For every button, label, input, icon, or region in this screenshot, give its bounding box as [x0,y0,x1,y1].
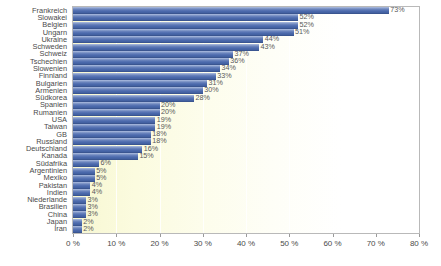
bar-row: 6% [73,160,419,167]
bar [73,146,142,153]
bar [73,36,263,43]
bar-value-label: 73% [390,6,404,14]
x-axis: 0 %10 %20 %30 %40 %50 %60 %70 %80 % [72,234,420,264]
x-tick-mark [116,234,117,237]
x-tick-label: 10 % [107,239,125,249]
bar [73,138,151,145]
bar-row: 30% [73,87,419,94]
x-tick-mark [289,234,290,237]
bar-value-label: 2% [83,225,93,233]
bar [73,219,82,226]
bar-row: 3% [73,204,419,211]
bar-row: 19% [73,124,419,131]
bar [73,73,216,80]
bar [73,226,82,233]
bar [73,109,160,116]
bar-row: 51% [73,29,419,36]
bar [73,7,389,14]
bar [73,44,259,51]
bar-row: 36% [73,58,419,65]
bar-row: 52% [73,22,419,29]
bar [73,102,160,109]
x-tick-label: 70 % [367,239,385,249]
bar [73,204,86,211]
bar [73,22,298,29]
bar-value-label: 43% [260,43,274,51]
x-tick-mark [73,234,74,237]
x-tick-label: 20 % [150,239,168,249]
bar [73,87,203,94]
bar-row: 34% [73,65,419,72]
x-tick-mark [246,234,247,237]
gridline [419,7,420,233]
x-tick-mark [203,234,204,237]
x-tick-label: 80 % [410,239,428,249]
x-tick-mark [419,234,420,237]
x-tick-mark [376,234,377,237]
bar-row: 20% [73,102,419,109]
bar-row: 3% [73,211,419,218]
bar-row: 52% [73,14,419,21]
bar [73,58,229,65]
bar-row: 4% [73,189,419,196]
bar [73,14,298,21]
x-tick-label: 0 % [66,239,80,249]
bar-row: 31% [73,80,419,87]
category-label: Iran [54,225,67,233]
bar-row: 44% [73,36,419,43]
bar-row: 5% [73,168,419,175]
bar-row: 19% [73,117,419,124]
plot-area: 73%52%52%51%44%43%37%36%34%33%31%30%28%2… [72,6,420,234]
bar-value-label: 51% [295,28,309,36]
bar-row: 4% [73,182,419,189]
bar-row: 37% [73,51,419,58]
bar [73,131,151,138]
bar-row: 28% [73,95,419,102]
x-tick-mark [160,234,161,237]
bar-row: 16% [73,146,419,153]
bar-row: 20% [73,109,419,116]
bar-row: 2% [73,219,419,226]
bar [73,160,99,167]
bar [73,117,155,124]
x-tick-label: 50 % [280,239,298,249]
bar-row: 3% [73,197,419,204]
bar [73,124,155,131]
bar [73,65,220,72]
bar-row: 15% [73,153,419,160]
x-tick-label: 40 % [237,239,255,249]
bar [73,51,233,58]
x-tick-label: 30 % [194,239,212,249]
bar [73,168,95,175]
bar-value-label: 15% [139,152,153,160]
bar-row: 33% [73,73,419,80]
bar-row: 18% [73,138,419,145]
x-tick-mark [333,234,334,237]
bar [73,182,90,189]
bar-row: 2% [73,226,419,233]
bar [73,80,207,87]
category-axis: FrankreichSlowakeiBelgienUngarnUkraineSc… [0,7,70,233]
bar-value-label: 28% [196,94,210,102]
bar [73,95,194,102]
bar [73,29,294,36]
x-tick-label: 60 % [323,239,341,249]
bar-chart: FrankreichSlowakeiBelgienUngarnUkraineSc… [0,0,441,266]
bar-row: 5% [73,175,419,182]
bar-row: 18% [73,131,419,138]
bar-row: 73% [73,7,419,14]
bar [73,197,86,204]
